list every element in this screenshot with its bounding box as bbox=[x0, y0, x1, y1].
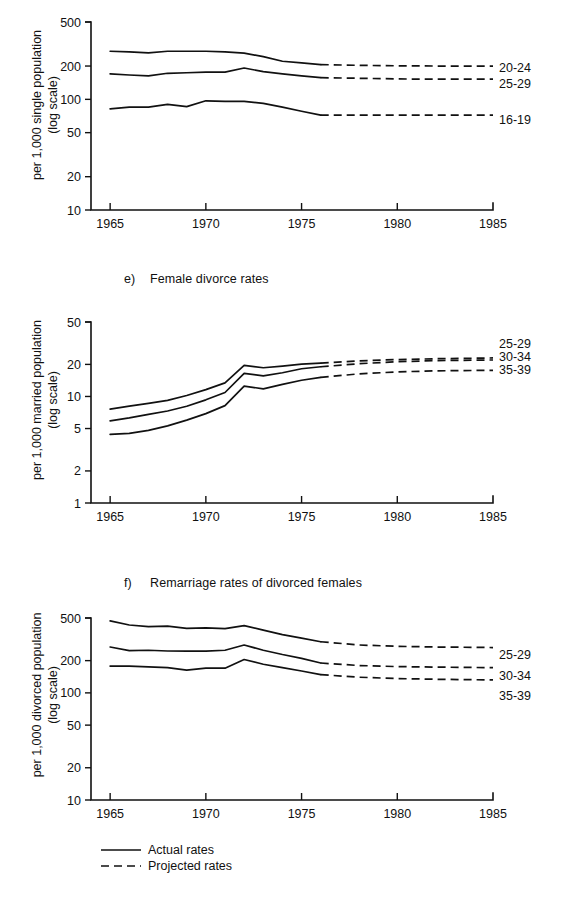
series-label: 25-29 bbox=[499, 648, 531, 662]
y-tick-label: 50 bbox=[67, 719, 81, 733]
legend-item-actual: Actual rates bbox=[100, 842, 232, 858]
y-tick-label: 20 bbox=[67, 761, 81, 775]
series-actual-line bbox=[110, 621, 321, 642]
series-projected-line bbox=[321, 642, 493, 648]
series-actual-line bbox=[110, 645, 321, 663]
x-tick-label: 1975 bbox=[288, 807, 316, 821]
legend-item-projected: Projected rates bbox=[100, 858, 232, 874]
series-projected-line bbox=[321, 663, 493, 668]
series-projected-line bbox=[321, 675, 493, 680]
series-label: 30-34 bbox=[499, 669, 531, 683]
legend-label-actual: Actual rates bbox=[148, 843, 214, 857]
x-tick-label: 1985 bbox=[479, 807, 507, 821]
series-label: 35-39 bbox=[499, 689, 531, 703]
y-tick-label: 10 bbox=[67, 794, 81, 808]
chart-panel-3: f)Remarriage rates of divorced females p… bbox=[0, 0, 568, 905]
legend-label-projected: Projected rates bbox=[148, 859, 232, 873]
x-tick-label: 1980 bbox=[383, 807, 411, 821]
figure-legend: Actual rates Projected rates bbox=[100, 842, 232, 874]
y-tick-label: 500 bbox=[60, 612, 81, 626]
y-tick-label: 100 bbox=[60, 686, 81, 700]
chart-3-plot: 1020501002005001965197019751980198525-29… bbox=[0, 0, 568, 905]
figure-page: per 1,000 single population (log scale) … bbox=[0, 0, 568, 905]
legend-dashed-line-icon bbox=[100, 861, 142, 871]
x-tick-label: 1965 bbox=[96, 807, 124, 821]
y-tick-label: 200 bbox=[60, 654, 81, 668]
legend-solid-line-icon bbox=[100, 845, 142, 855]
x-tick-label: 1970 bbox=[192, 807, 220, 821]
series-actual-line bbox=[110, 659, 321, 674]
